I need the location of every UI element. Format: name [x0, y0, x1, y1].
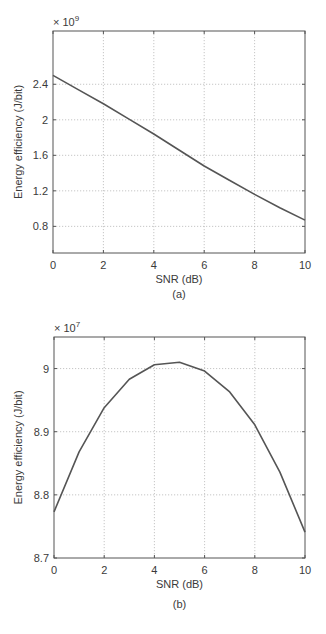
- plot-frame: [53, 31, 305, 253]
- x-axis-label: SNR (dB): [155, 273, 202, 285]
- chart-panel-b: 02468108.78.88.99× 107SNR (dB)Energy eff…: [12, 320, 311, 610]
- data-series-line: [53, 75, 305, 220]
- x-tick-label: 6: [201, 259, 207, 271]
- x-tick-label: 2: [101, 564, 107, 576]
- y-multiplier: × 109: [53, 14, 80, 28]
- x-tick-label: 4: [151, 564, 157, 576]
- y-tick-label: 1.6: [33, 149, 48, 161]
- x-tick-label: 2: [100, 259, 106, 271]
- y-tick-label: 8.7: [34, 552, 49, 564]
- y-tick-label: 9: [43, 363, 49, 375]
- x-tick-label: 0: [50, 259, 56, 271]
- y-multiplier: × 107: [54, 320, 81, 334]
- x-tick-label: 0: [51, 564, 57, 576]
- y-tick-label: 8.9: [34, 426, 49, 438]
- chart-panel-a: 02468100.81.21.622.4× 109SNR (dB)Energy …: [12, 14, 311, 300]
- data-series-line: [54, 362, 305, 532]
- y-tick-label: 1.2: [33, 185, 48, 197]
- x-tick-label: 8: [252, 564, 258, 576]
- x-tick-label: 6: [202, 564, 208, 576]
- x-axis-label: SNR (dB): [156, 578, 203, 590]
- x-tick-label: 10: [299, 564, 311, 576]
- x-tick-label: 8: [252, 259, 258, 271]
- y-axis-label: Energy efficiency (J/bit): [12, 390, 24, 504]
- y-tick-label: 2: [42, 114, 48, 126]
- y-tick-label: 2.4: [33, 78, 48, 90]
- panel-caption: (a): [172, 288, 185, 300]
- panel-caption: (b): [173, 598, 186, 610]
- x-tick-label: 4: [151, 259, 157, 271]
- figure-canvas: 02468100.81.21.622.4× 109SNR (dB)Energy …: [0, 0, 326, 634]
- y-axis-label: Energy efficiency (J/bit): [12, 85, 24, 199]
- x-tick-label: 10: [299, 259, 311, 271]
- y-tick-label: 0.8: [33, 220, 48, 232]
- y-tick-label: 8.8: [34, 489, 49, 501]
